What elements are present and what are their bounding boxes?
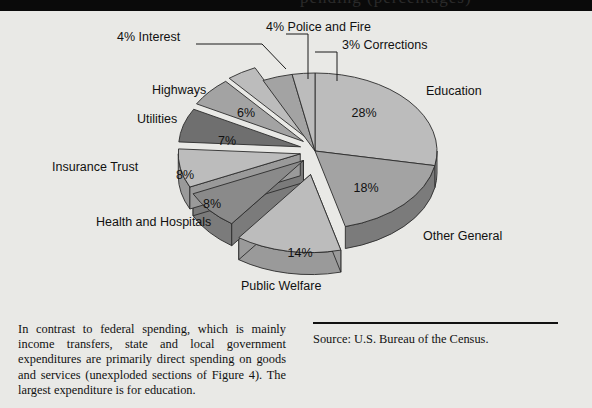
pie-pct-other-general: 18%	[353, 181, 378, 195]
pie-chart-figure: 28%18%14%8%8%7%6% 4% Police and Fire 3% …	[0, 11, 592, 311]
page-header-band: pending (percentages)	[0, 0, 592, 11]
pie-pct-utilities: 7%	[218, 134, 236, 148]
label-police-and-fire: 4% Police and Fire	[266, 20, 371, 34]
pie-pct-public-welfare: 14%	[287, 246, 312, 260]
label-interest: 4% Interest	[117, 30, 180, 44]
callout-line-interest	[196, 44, 286, 69]
label-other-general: Other General	[423, 229, 502, 243]
pie-pct-insurance-trust: 8%	[176, 168, 194, 182]
label-utilities: Utilities	[137, 112, 177, 126]
figure-caption: In contrast to federal spending, which i…	[18, 322, 286, 398]
pie-pct-education: 28%	[351, 106, 376, 120]
label-education: Education	[426, 84, 482, 98]
label-health-and-hospitals: Health and Hospitals	[96, 215, 211, 229]
clipped-header-text: pending (percentages)	[300, 0, 472, 8]
source-divider	[313, 322, 558, 324]
label-corrections: 3% Corrections	[342, 38, 427, 52]
pie-pct-highways: 6%	[237, 106, 255, 120]
pie-pct-health-and-hospitals: 8%	[203, 197, 221, 211]
label-highways: Highways	[152, 83, 206, 97]
source-text: Source: U.S. Bureau of the Census.	[313, 332, 575, 347]
source-block: Source: U.S. Bureau of the Census.	[313, 322, 575, 347]
label-public-welfare: Public Welfare	[241, 279, 321, 293]
label-insurance-trust: Insurance Trust	[52, 160, 138, 174]
callout-line-police-and-fire	[286, 34, 308, 79]
